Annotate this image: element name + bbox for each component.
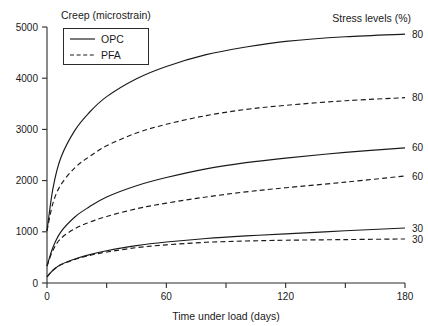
legend-label-pfa: PFA: [101, 49, 121, 61]
x-tick-label: 0: [44, 291, 50, 302]
end-label-opc-60: 60: [412, 142, 424, 153]
y-tick-label: 4000: [16, 73, 39, 84]
end-label-pfa-60: 60: [412, 171, 424, 182]
y-tick-label: 5000: [16, 22, 39, 33]
end-label-opc-80: 80: [412, 29, 424, 40]
x-tick-label: 60: [161, 291, 173, 302]
x-tick-label: 120: [277, 291, 294, 302]
y-axis-title: Creep (microstrain): [61, 9, 151, 21]
y-tick-label: 2000: [16, 175, 39, 186]
stress-levels-title: Stress levels (%): [332, 12, 411, 24]
end-label-pfa-80: 80: [412, 92, 424, 103]
y-tick-label: 0: [32, 278, 38, 289]
y-tick-label: 1000: [16, 226, 39, 237]
end-label-pfa-30: 30: [412, 234, 424, 245]
legend: OPC PFA: [64, 29, 149, 65]
legend-label-opc: OPC: [101, 33, 124, 45]
end-label-opc-30: 30: [412, 223, 424, 234]
x-tick-label: 180: [397, 291, 414, 302]
chart-canvas: 010002000300040005000 060120180 Creep (m…: [0, 0, 428, 326]
y-tick-label: 3000: [16, 124, 39, 135]
x-axis-title: Time under load (days): [172, 310, 280, 322]
creep-chart: 010002000300040005000 060120180 Creep (m…: [0, 0, 428, 326]
